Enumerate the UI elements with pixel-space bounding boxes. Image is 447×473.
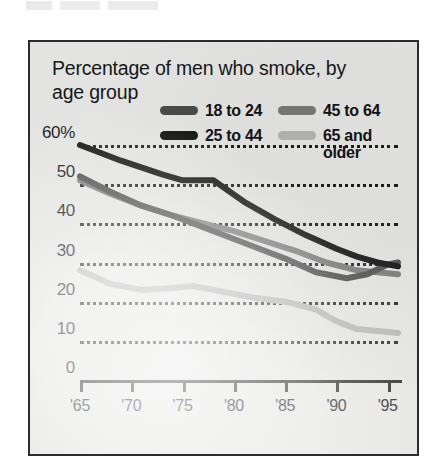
series-line-25-to-44 [80, 145, 398, 266]
x-tick-85 [285, 383, 288, 392]
legend-label-45-to-64: 45 to 64 [323, 102, 380, 119]
legend-swatch-45-to-64 [278, 106, 316, 115]
x-axis: '65'70'75'80'85'90'95 [80, 380, 402, 383]
x-axis-label-65: '65 [70, 397, 90, 415]
legend-swatch-65-and-older [278, 131, 316, 140]
x-axis-label-70: '70 [121, 397, 141, 415]
series-lines [80, 145, 398, 380]
x-tick-65 [80, 383, 83, 392]
cropped-text-sliver [26, 1, 206, 10]
x-tick-80 [234, 383, 237, 392]
y-axis-label-30: 30 [57, 240, 75, 260]
legend-swatch-25-to-44 [160, 131, 198, 140]
y-axis-label-60: 60% [42, 123, 75, 143]
y-axis-label-10: 10 [57, 318, 75, 338]
y-axis-label-20: 20 [57, 279, 75, 299]
series-line-45-to-64 [80, 180, 398, 274]
chart-title: Percentage of men who smoke, by age grou… [52, 56, 382, 104]
legend-item-18-to-24: 18 to 24 [160, 102, 278, 119]
x-axis-label-75: '75 [173, 397, 193, 415]
y-axis-label-0: 0 [66, 358, 75, 378]
x-tick-95 [388, 383, 391, 392]
series-line-18-to-24 [80, 176, 398, 278]
x-axis-label-80: '80 [224, 397, 244, 415]
plot-area: 60%50403020100 [80, 145, 398, 380]
x-axis-label-95: '95 [378, 397, 398, 415]
x-tick-90 [336, 383, 339, 392]
x-tick-75 [183, 383, 186, 392]
chart-panel: Percentage of men who smoke, by age grou… [28, 40, 419, 456]
legend-label-25-to-44: 25 to 44 [205, 127, 262, 144]
y-axis-label-40: 40 [57, 201, 75, 221]
legend-label-18-to-24: 18 to 24 [205, 102, 262, 119]
x-axis-label-90: '90 [326, 397, 346, 415]
x-axis-label-85: '85 [275, 397, 295, 415]
legend-item-45-to-64: 45 to 64 [278, 102, 410, 119]
x-tick-70 [131, 383, 134, 392]
legend-swatch-18-to-24 [160, 106, 198, 115]
y-axis-label-50: 50 [57, 162, 75, 182]
